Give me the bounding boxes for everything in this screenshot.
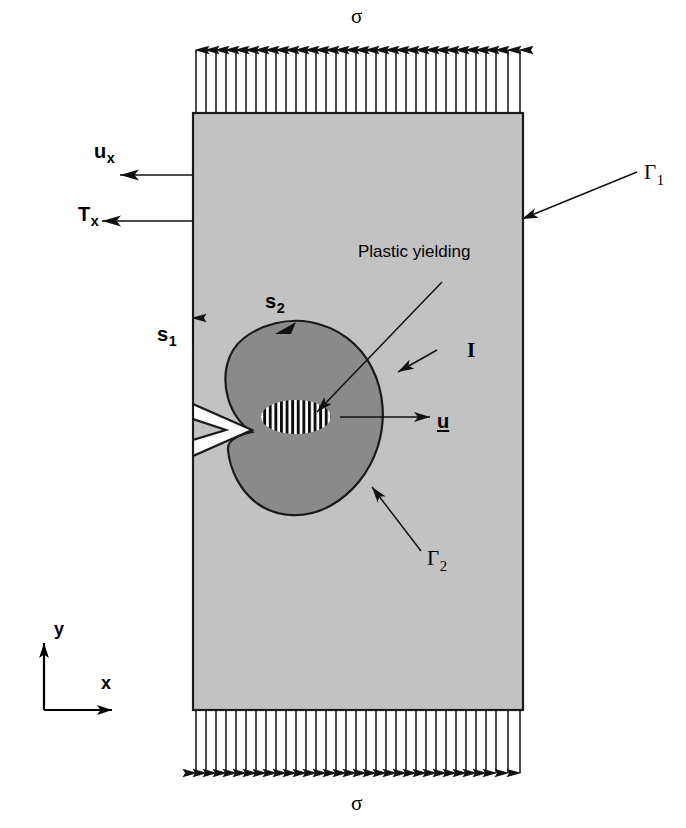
- gamma1-symbol: Γ: [644, 160, 656, 184]
- plastic-yielding-label: Plastic yielding: [358, 243, 470, 260]
- tx-subscript: x: [90, 213, 99, 229]
- ux-subscript: x: [106, 150, 115, 166]
- bottom-load-arrows: [196, 710, 520, 773]
- gamma2-label: Γ2: [427, 548, 447, 573]
- diagram-canvas: [0, 0, 686, 828]
- s1-label: s1: [157, 324, 177, 348]
- s2-subscript: 2: [276, 300, 285, 316]
- tx-symbol: T: [78, 203, 90, 225]
- ux-symbol: u: [94, 140, 106, 162]
- s1-subscript: 1: [168, 333, 177, 349]
- gamma1-subscript: 1: [656, 172, 664, 188]
- s2-label: s2: [265, 291, 285, 315]
- tx-label: Tx: [78, 204, 99, 228]
- s2-symbol: s: [265, 290, 276, 312]
- gamma1-arrow: [522, 172, 637, 219]
- sigma-top-label: σ: [351, 6, 362, 27]
- top-load-arrows: [196, 50, 520, 113]
- process-zone-hatched: [261, 400, 331, 434]
- axis-x-label: x: [101, 674, 111, 692]
- s1-symbol: s: [157, 323, 168, 345]
- gamma2-subscript: 2: [439, 558, 447, 574]
- displacement-u-label: u: [437, 411, 449, 431]
- ux-label: ux: [94, 141, 115, 165]
- sigma-bottom-label: σ: [351, 793, 362, 814]
- gamma2-symbol: Γ: [427, 546, 439, 570]
- axis-y-label: y: [54, 620, 64, 638]
- gamma1-label: Γ1: [644, 162, 664, 187]
- integral-I-label: I: [467, 340, 475, 361]
- fracture-mechanics-figure: σ σ ux Tx s1 s2 Γ1 Γ2 Plastic yielding I…: [0, 0, 686, 828]
